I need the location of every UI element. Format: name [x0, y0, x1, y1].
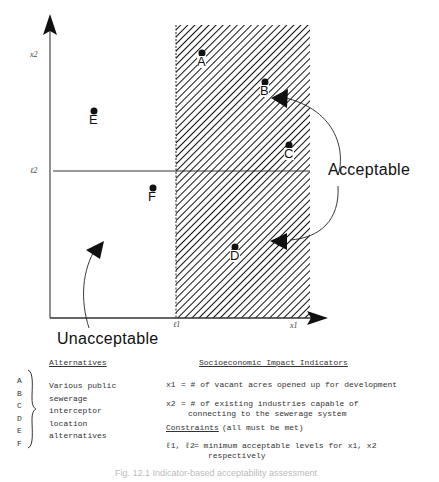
x2-definition-line1: = # of existing industries capable of: [181, 399, 359, 408]
alt-desc-line: alternatives: [49, 430, 116, 443]
figure-caption: Fig. 12.1 Indicator-based acceptability …: [115, 468, 317, 478]
y-axis-label: x2: [30, 50, 38, 59]
alt-letter: E: [17, 425, 22, 438]
constraints-symbols: ℓ1, ℓ2: [166, 441, 195, 450]
constraints-definition-line2: respectively: [208, 451, 266, 460]
x1-definition: = # of vacant acres opened up for develo…: [181, 380, 397, 389]
x1-symbol: x1: [166, 380, 176, 389]
point-c-label: C: [284, 148, 294, 160]
alt-letter: D: [17, 413, 22, 426]
alt-letter: A: [17, 375, 22, 388]
constraints-definition-line1: = minimum acceptable levels for x1, x2: [194, 441, 376, 450]
acceptable-label: Acceptable: [328, 161, 410, 179]
alt-desc-line: sewerage: [49, 393, 116, 406]
alt-desc-line: location: [49, 418, 116, 431]
alt-desc-line: interceptor: [49, 405, 116, 418]
alternatives-brace-icon: [26, 368, 38, 450]
alternatives-heading: Alternatives: [49, 358, 107, 367]
alt-letter: B: [17, 388, 22, 401]
alt-desc-line: Various public: [49, 380, 116, 393]
x2-symbol: x2: [166, 399, 176, 408]
constraints-heading: Constraints: [166, 423, 219, 432]
l2-label: ℓ2: [30, 166, 37, 175]
point-f-label: F: [148, 191, 156, 203]
x2-definition-line2: connecting to the sewerage system: [188, 409, 346, 418]
l1-label: ℓ1: [173, 320, 180, 329]
alt-letter: F: [17, 438, 22, 451]
point-a-label: A: [197, 56, 206, 68]
point-e-label: E: [89, 114, 98, 126]
alt-letter: C: [17, 400, 22, 413]
unacceptable-arrow-curve: [84, 248, 96, 328]
x-axis-label: x1: [290, 321, 298, 330]
constraints-note: (all must be met): [222, 423, 304, 432]
alternatives-description: Various public sewerage interceptor loca…: [49, 380, 116, 443]
indicators-heading: Socioeconomic Impact Indicators: [199, 358, 348, 367]
unacceptable-arrow-head-icon: [86, 241, 104, 259]
alternatives-letters: A B C D E F: [17, 375, 22, 450]
point-b-label: B: [260, 85, 269, 97]
unacceptable-label: Unacceptable: [57, 330, 158, 348]
point-d-label: D: [230, 250, 240, 262]
